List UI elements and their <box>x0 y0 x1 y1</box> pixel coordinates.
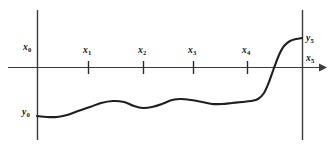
label-x1-sub: 1 <box>88 49 91 56</box>
label-x5-sub: 5 <box>311 57 314 64</box>
label-x2: x2 <box>138 46 146 56</box>
label-x0-sub: 0 <box>28 46 31 53</box>
label-x5: x5 <box>306 54 314 64</box>
plotted-curve <box>37 38 302 117</box>
x-axis-arrow-icon <box>319 64 327 72</box>
label-x4-sub: 4 <box>247 49 250 56</box>
label-y0: y0 <box>22 108 30 118</box>
label-y5-sub: 5 <box>310 37 313 44</box>
function-graph-figure: x0 x1 x2 x3 x4 x5 y5 y0 <box>0 0 333 144</box>
graph-canvas <box>0 0 333 144</box>
label-x3: x3 <box>188 46 196 56</box>
label-x3-sub: 3 <box>193 49 196 56</box>
label-y0-sub: 0 <box>26 111 29 118</box>
label-y5: y5 <box>306 34 314 44</box>
label-x2-sub: 2 <box>143 49 146 56</box>
label-x4: x4 <box>242 46 250 56</box>
label-x1: x1 <box>83 46 91 56</box>
label-x0: x0 <box>23 43 31 53</box>
